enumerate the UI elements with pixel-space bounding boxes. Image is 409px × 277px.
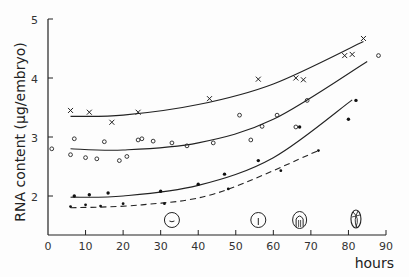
small-dot-marker [84,203,87,206]
stage-glyphs [164,210,361,229]
open-circle-marker [84,156,88,160]
cross-marker [68,108,73,113]
open-circle-marker [170,141,174,145]
open-circle-marker [117,159,121,163]
x-tick-label: 20 [116,240,130,253]
y-axis-title: RNA content (µg/embryo) [12,42,28,221]
cross-marker [301,77,306,82]
open-circle-marker [95,157,99,161]
plot-area: 23450102030405060708090 RNA content (µg/… [0,0,409,277]
open-circle-marker [69,153,73,157]
x-tick-label: 90 [379,240,393,253]
x-tick-label: 60 [266,240,280,253]
small-dot-marker [163,202,166,205]
cross-marker [207,96,212,101]
open-circle-marker [294,125,298,129]
small-dot-marker [317,149,320,152]
embryo-stage-icon [293,212,307,229]
filled-dot-marker [159,190,162,193]
open-circle-marker [50,147,54,151]
axes: 23450102030405060708090 [31,14,393,253]
x-tick-label: 50 [229,240,243,253]
open-circle-marker [211,141,215,145]
y-tick-label: 5 [31,14,38,27]
open-circle-marker [377,54,381,58]
filled-dot-marker [106,191,109,194]
fit-curve [71,41,364,116]
fit-curve [71,100,353,197]
filled-dot-marker [298,125,301,128]
filled-dot-marker [88,193,91,196]
open-circle-marker [125,155,129,159]
cross-marker [342,53,347,58]
x-tick-label: 40 [191,240,205,253]
filled-dot-marker [257,159,260,162]
small-dot-marker [227,188,230,191]
open-circle-marker [249,138,253,142]
filled-dot-marker [197,183,200,186]
y-tick-label: 4 [31,73,38,86]
open-circle-marker [102,140,106,144]
fit-curve [71,151,319,208]
cross-marker [350,52,355,57]
fit-curve [71,61,368,150]
chart: 23450102030405060708090 RNA content (µg/… [0,0,409,277]
x-tick-label: 0 [45,240,52,253]
cross-marker [361,36,366,41]
small-dot-marker [122,202,125,205]
fit-curves [71,41,368,207]
y-tick-label: 2 [31,191,38,204]
x-tick-label: 80 [341,240,355,253]
open-circle-marker [238,113,242,117]
cross-marker [293,76,298,81]
small-dot-marker [279,169,282,172]
open-circle-marker [136,138,140,142]
x-tick-label: 10 [79,240,93,253]
open-circle-marker [151,139,155,143]
cross-marker [87,110,92,115]
small-dot-marker [99,205,102,208]
embryo-stage-icon [164,213,179,228]
open-circle-marker [275,113,279,117]
x-axis-title: hours [355,255,394,271]
x-tick-label: 30 [154,240,168,253]
cross-marker [256,77,261,82]
embryo-stage-icon [351,210,361,228]
filled-dot-marker [347,118,350,121]
cross-marker [109,120,114,125]
small-dot-marker [69,205,72,208]
filled-dot-marker [354,99,357,102]
data-points [50,36,381,208]
filled-dot-marker [73,194,76,197]
open-circle-marker [260,124,264,128]
open-circle-marker [140,137,144,141]
filled-dot-marker [223,172,226,175]
x-tick-label: 70 [304,240,318,253]
y-tick-label: 3 [31,132,38,145]
open-circle-marker [72,137,76,141]
embryo-stage-icon [251,213,266,228]
